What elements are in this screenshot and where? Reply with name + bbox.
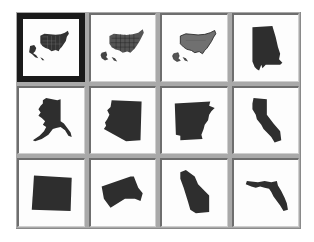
- alaska-map-icon: [24, 92, 79, 148]
- thumbnail-alabama[interactable]: [232, 13, 300, 82]
- thumbnail-usa-outline[interactable]: [160, 13, 228, 82]
- arizona-map-icon: [95, 92, 150, 148]
- arkansas-map-icon: [167, 92, 222, 148]
- delaware-map-icon: [167, 165, 222, 221]
- thumbnail-california[interactable]: [232, 86, 300, 155]
- colorado-map-icon: [24, 165, 79, 221]
- connecticut-map-icon: [95, 165, 150, 221]
- thumbnail-arkansas[interactable]: [160, 86, 228, 155]
- thumbnail-usa-states[interactable]: [89, 13, 157, 82]
- thumbnail-connecticut[interactable]: [89, 158, 157, 227]
- map-thumbnail-gallery: [16, 12, 301, 229]
- thumbnail-usa-states-selected[interactable]: [17, 13, 85, 82]
- thumbnail-colorado[interactable]: [17, 158, 85, 227]
- thumbnail-arizona[interactable]: [89, 86, 157, 155]
- thumbnail-alaska[interactable]: [17, 86, 85, 155]
- california-map-icon: [238, 92, 293, 148]
- usa-states-map-icon: [95, 20, 150, 76]
- alabama-map-icon: [238, 20, 293, 76]
- thumbnail-delaware[interactable]: [160, 158, 228, 227]
- thumbnail-florida[interactable]: [232, 158, 300, 227]
- usa-outline-map-icon: [167, 20, 222, 76]
- florida-map-icon: [238, 165, 293, 221]
- usa-states-map-icon: [25, 21, 76, 73]
